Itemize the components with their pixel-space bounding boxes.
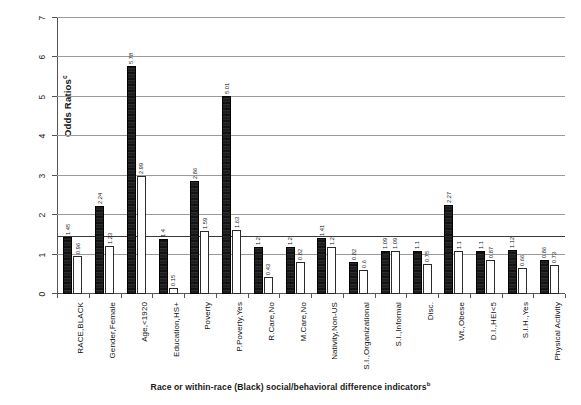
x-axis-category-label: Disc. <box>426 302 435 320</box>
bar-unadjusted: 0.82 <box>349 262 358 294</box>
bar-adjusted: 1.1 <box>454 251 463 294</box>
x-axis-tick <box>343 294 344 298</box>
bar-value-label: 0.82 <box>297 248 303 259</box>
x-axis-category-label: S.I.,Informal <box>394 302 403 346</box>
x-axis-title-superscript: b <box>427 381 431 387</box>
bar-value-label: 0.96 <box>75 243 81 254</box>
bar-adjusted: 0.82 <box>296 262 305 294</box>
x-axis-category-label: M.Care,No <box>299 302 308 342</box>
plot-area: 01234567 1.450.962.241.235.782.991.40.15… <box>57 18 565 294</box>
bar-value-label: 0.73 <box>551 252 557 263</box>
bar-adjusted: 1.59 <box>200 231 209 294</box>
bar-value-label: 0.86 <box>541 247 547 258</box>
bar-value-label: 0.15 <box>170 275 176 286</box>
x-axis-category-label: Education,HS+ <box>172 302 181 357</box>
bar-unadjusted: 1.09 <box>381 251 390 294</box>
bar-unadjusted: 2.27 <box>444 205 453 295</box>
bar-adjusted: 0.73 <box>550 265 559 294</box>
bar-value-label: 5.78 <box>129 53 135 64</box>
y-axis-tick-label: 3 <box>37 169 47 183</box>
x-axis-category-label: Poverty <box>203 302 212 330</box>
bar-value-label: 1.09 <box>383 238 389 249</box>
y-axis-tick <box>52 96 57 97</box>
odds-ratio-bar-chart: Odds Ratiosc 01234567 1.450.962.241.235.… <box>0 0 581 405</box>
y-axis-tick-label: 4 <box>37 129 47 143</box>
bar-value-label: 1.12 <box>510 237 516 248</box>
x-axis-category-label: RACE,BLACK <box>76 302 85 354</box>
bar-unadjusted: 1.41 <box>317 238 326 294</box>
x-axis-category-label: Nativity,Non-US <box>330 302 339 360</box>
bar-adjusted: 0.75 <box>423 264 432 294</box>
bar-value-label: 1.59 <box>202 218 208 229</box>
bar-adjusted: 1.63 <box>232 230 241 294</box>
y-axis-tick-label: 6 <box>37 50 47 64</box>
bar-value-label: 2.86 <box>192 168 198 179</box>
x-axis-tick <box>57 294 58 298</box>
x-axis-category-label: D.I.,HEI<5 <box>489 302 498 340</box>
bar-value-label: 1.2 <box>329 237 335 245</box>
x-axis-tick <box>565 294 566 298</box>
x-axis-title: Race or within-race (Black) social/behav… <box>0 381 581 392</box>
y-axis-tick-label: 5 <box>37 90 47 104</box>
y-axis-tick-label: 0 <box>37 287 47 301</box>
bar-unadjusted: 1.45 <box>63 237 72 294</box>
bar-value-label: 0.43 <box>266 264 272 275</box>
bar-unadjusted: 1.2 <box>286 247 295 294</box>
bar-value-label: 1.1 <box>478 241 484 249</box>
bar-adjusted: 0.66 <box>518 268 527 294</box>
x-axis-tick <box>152 294 153 298</box>
bar-value-label: 1.2 <box>287 237 293 245</box>
bar-value-label: 1.63 <box>234 216 240 227</box>
y-axis-tick <box>52 214 57 215</box>
bar-adjusted: 1.09 <box>391 251 400 294</box>
y-axis-tick <box>52 175 57 176</box>
bar-adjusted: 0.43 <box>264 277 273 294</box>
x-axis-category-label: Wt.,Obese <box>457 302 466 341</box>
y-axis-tick <box>52 135 57 136</box>
bar-value-label: 1.4 <box>160 229 166 237</box>
gridline <box>57 17 565 18</box>
bar-adjusted: 0.87 <box>486 260 495 294</box>
bar-value-label: 0.6 <box>361 260 367 268</box>
bar-unadjusted: 1.12 <box>508 250 517 294</box>
y-axis-tick <box>52 17 57 18</box>
x-axis-category-label: Physical Activity <box>553 302 562 361</box>
x-axis-category-label: S.I.H.,Yes <box>521 302 530 338</box>
x-axis-tick <box>216 294 217 298</box>
bar-value-label: 0.66 <box>520 255 526 266</box>
bar-value-label: 1.41 <box>319 225 325 236</box>
bar-unadjusted: 0.86 <box>540 260 549 294</box>
x-axis-category-label: P.Poverty,Yes <box>235 302 244 352</box>
x-axis-tick <box>438 294 439 298</box>
bar-unadjusted: 2.86 <box>190 181 199 294</box>
bar-value-label: 1.09 <box>393 238 399 249</box>
bar-value-label: 1.23 <box>107 232 113 243</box>
x-axis-tick <box>375 294 376 298</box>
x-axis-category-label: Age,<1920 <box>140 302 149 342</box>
bar-value-label: 1.2 <box>256 237 262 245</box>
bar-unadjusted: 1.4 <box>159 239 168 294</box>
x-axis-tick <box>406 294 407 298</box>
y-axis-tick-label: 1 <box>37 248 47 262</box>
bar-value-label: 5.01 <box>224 83 230 94</box>
bar-unadjusted: 1.2 <box>254 247 263 294</box>
x-axis-category-label: R.Care,No <box>267 302 276 341</box>
bar-value-label: 0.75 <box>424 251 430 262</box>
bar-adjusted: 1.2 <box>327 247 336 294</box>
x-axis-tick <box>184 294 185 298</box>
bar-value-label: 1.1 <box>414 241 420 249</box>
bar-value-label: 1.1 <box>456 241 462 249</box>
x-axis-category-label: Gender,Female <box>108 302 117 358</box>
bar-adjusted: 0.96 <box>73 256 82 294</box>
y-axis-tick-label: 2 <box>37 208 47 222</box>
x-axis-tick <box>533 294 534 298</box>
bar-unadjusted: 1.1 <box>476 251 485 294</box>
bar-value-label: 0.82 <box>351 248 357 259</box>
x-axis-title-text: Race or within-race (Black) social/behav… <box>151 382 427 392</box>
bar-unadjusted: 1.1 <box>413 251 422 294</box>
bar-adjusted: 0.6 <box>359 270 368 294</box>
x-axis-tick <box>89 294 90 298</box>
bar-adjusted: 1.23 <box>105 246 114 294</box>
bar-unadjusted: 2.24 <box>95 206 104 294</box>
bar-value-label: 1.45 <box>65 224 71 235</box>
